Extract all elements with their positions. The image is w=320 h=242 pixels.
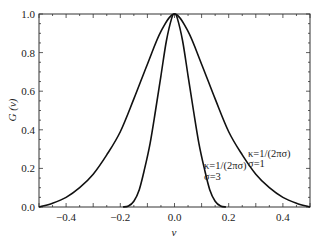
y-tick-label: 1.0 xyxy=(21,8,35,20)
x-tick-label: 0.0 xyxy=(168,211,182,223)
axis-ticks xyxy=(39,14,310,207)
annotation-sigma1-line2: σ=1 xyxy=(248,158,265,169)
tick-labels: −0.4−0.20.00.20.40.00.20.40.60.81.0 xyxy=(21,8,290,223)
y-axis-label: G (v) xyxy=(6,98,19,121)
plot-frame xyxy=(39,14,310,207)
curve-sigma-1 xyxy=(39,14,310,207)
x-axis-label: v xyxy=(172,226,177,238)
x-tick-label: 0.2 xyxy=(222,211,236,223)
curves xyxy=(39,14,310,207)
annotation-sigma3-line2: σ=3 xyxy=(204,171,221,182)
y-tick-label: 0.4 xyxy=(21,124,35,136)
y-tick-label: 0.6 xyxy=(21,85,35,97)
y-tick-label: 0.0 xyxy=(21,201,35,213)
x-tick-label: 0.4 xyxy=(276,211,290,223)
chart: −0.4−0.20.00.20.40.00.20.40.60.81.0 v G … xyxy=(0,0,320,242)
x-tick-label: −0.4 xyxy=(56,211,76,223)
y-tick-label: 0.2 xyxy=(21,162,35,174)
y-tick-label: 0.8 xyxy=(21,47,35,59)
x-tick-label: −0.2 xyxy=(110,211,130,223)
